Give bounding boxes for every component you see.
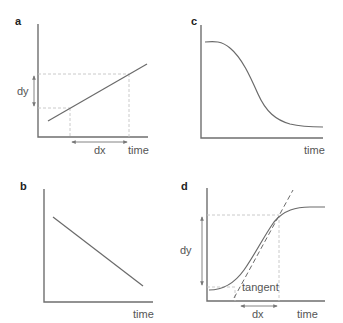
- dy-label-d: dy: [180, 244, 192, 256]
- panel-label-d: d: [181, 180, 188, 192]
- guide-lines-a: [38, 74, 129, 137]
- axes-b: [44, 189, 153, 302]
- panel-d: d dy tangent dx time: [180, 180, 325, 320]
- dx-label-a: dx: [94, 144, 106, 156]
- axes-a: [38, 24, 148, 137]
- panel-label-a: a: [15, 15, 22, 27]
- panel-b: b time: [20, 180, 154, 320]
- panel-a: a dy dx time: [15, 15, 149, 156]
- panel-c: c time: [191, 15, 325, 156]
- panel-label-c: c: [191, 15, 197, 27]
- panel-label-b: b: [20, 180, 27, 192]
- x-axis-label-a: time: [128, 144, 149, 156]
- x-axis-label-c: time: [304, 144, 325, 156]
- linear-decrease-line: [53, 217, 143, 286]
- sigmoid-increase-curve: [209, 207, 325, 290]
- x-axis-label-b: time: [133, 308, 154, 320]
- sigmoid-decrease-curve: [205, 42, 323, 127]
- dy-label-a: dy: [17, 85, 29, 97]
- tangent-label: tangent: [242, 281, 279, 293]
- figure-canvas: a dy dx time c time b time d dy tangent …: [0, 0, 343, 323]
- linear-increase-line: [48, 64, 147, 121]
- x-axis-label-d: time: [297, 308, 318, 320]
- dx-label-d: dx: [252, 308, 264, 320]
